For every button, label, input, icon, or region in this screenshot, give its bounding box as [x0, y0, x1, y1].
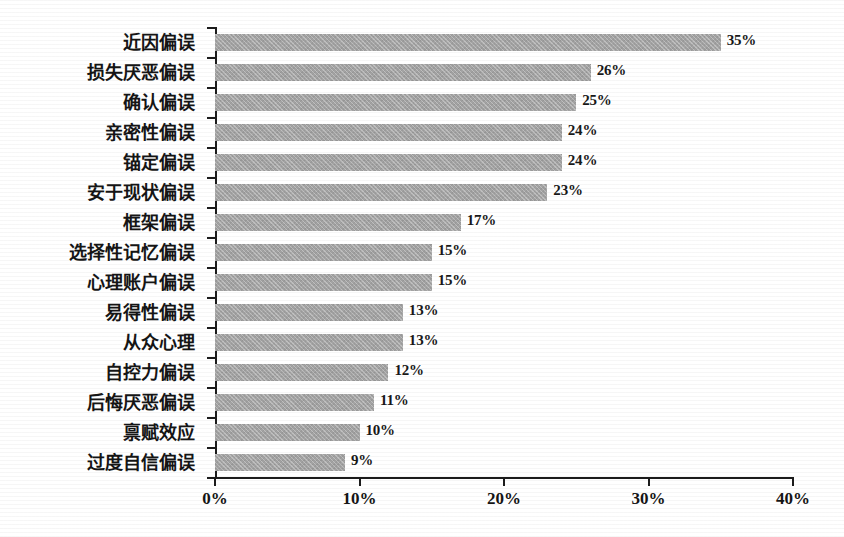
category-label: 禀赋效应	[0, 418, 203, 448]
y-axis-tick	[207, 27, 215, 29]
bar-row: 26%	[215, 58, 793, 88]
category-label: 易得性偏误	[0, 298, 203, 328]
bar-row: 10%	[215, 418, 793, 448]
category-label: 后悔厌恶偏误	[0, 388, 203, 418]
bar	[215, 394, 374, 411]
bar	[215, 124, 562, 141]
bar-row: 13%	[215, 328, 793, 358]
category-label: 自控力偏误	[0, 358, 203, 388]
x-axis-tick	[503, 478, 505, 486]
category-label: 损失厌恶偏误	[0, 58, 203, 88]
y-axis-tick	[207, 267, 215, 269]
bar	[215, 34, 721, 51]
category-label: 安于现状偏误	[0, 178, 203, 208]
bar-value-label: 12%	[394, 362, 423, 379]
y-axis-tick	[207, 297, 215, 299]
category-label: 锚定偏误	[0, 148, 203, 178]
bar-value-label: 13%	[409, 302, 438, 319]
bar	[215, 184, 547, 201]
bar	[215, 64, 591, 81]
bar-row: 11%	[215, 388, 793, 418]
bar-value-label: 10%	[366, 422, 395, 439]
bar-row: 24%	[215, 118, 793, 148]
category-label: 过度自信偏误	[0, 448, 203, 478]
y-axis-tick	[207, 237, 215, 239]
bar	[215, 454, 345, 471]
bar-value-label: 15%	[438, 272, 467, 289]
bar-value-label: 17%	[467, 212, 496, 229]
y-axis-tick	[207, 387, 215, 389]
x-axis-tick-label: 40%	[776, 489, 810, 509]
bar-value-label: 24%	[568, 122, 597, 139]
bar-chart: 近因偏误损失厌恶偏误确认偏误亲密性偏误锚定偏误安于现状偏误框架偏误选择性记忆偏误…	[0, 0, 844, 537]
plot-area: 35%26%25%24%24%23%17%15%15%13%13%12%11%1…	[215, 28, 793, 478]
bar-row: 15%	[215, 268, 793, 298]
category-axis-labels: 近因偏误损失厌恶偏误确认偏误亲密性偏误锚定偏误安于现状偏误框架偏误选择性记忆偏误…	[0, 28, 203, 478]
bar-row: 24%	[215, 148, 793, 178]
category-label: 心理账户偏误	[0, 268, 203, 298]
bar-value-label: 13%	[409, 332, 438, 349]
bar	[215, 274, 432, 291]
x-axis-tick-label: 0%	[202, 489, 228, 509]
category-label: 近因偏误	[0, 28, 203, 58]
bar-value-label: 9%	[351, 452, 373, 469]
y-axis-tick	[207, 447, 215, 449]
bar	[215, 154, 562, 171]
bar	[215, 214, 461, 231]
x-axis-tick-label: 30%	[632, 489, 666, 509]
x-axis-tick	[648, 478, 650, 486]
y-axis-tick	[207, 417, 215, 419]
bar	[215, 364, 388, 381]
bar	[215, 244, 432, 261]
bar-value-label: 35%	[727, 32, 756, 49]
bar	[215, 334, 403, 351]
category-label: 框架偏误	[0, 208, 203, 238]
bar-row: 13%	[215, 298, 793, 328]
category-label: 确认偏误	[0, 88, 203, 118]
bar	[215, 424, 360, 441]
category-label: 从众心理	[0, 328, 203, 358]
bar-value-label: 23%	[553, 182, 582, 199]
bar-value-label: 24%	[568, 152, 597, 169]
bar-row: 23%	[215, 178, 793, 208]
bar-row: 35%	[215, 28, 793, 58]
bar-row: 9%	[215, 448, 793, 478]
bar-value-label: 26%	[597, 62, 626, 79]
bar	[215, 94, 576, 111]
x-axis-tick	[214, 478, 216, 486]
bar-value-label: 15%	[438, 242, 467, 259]
bar-value-label: 25%	[582, 92, 611, 109]
bar-row: 12%	[215, 358, 793, 388]
y-axis-tick	[207, 177, 215, 179]
bar	[215, 304, 403, 321]
x-axis-tick-label: 20%	[487, 489, 521, 509]
category-label: 选择性记忆偏误	[0, 238, 203, 268]
x-axis-tick	[359, 478, 361, 486]
y-axis-tick	[207, 57, 215, 59]
y-axis-tick	[207, 87, 215, 89]
bar-row: 15%	[215, 238, 793, 268]
x-axis-tick-label: 10%	[343, 489, 377, 509]
y-axis-tick	[207, 327, 215, 329]
bar-row: 25%	[215, 88, 793, 118]
category-label: 亲密性偏误	[0, 118, 203, 148]
y-axis-tick	[207, 117, 215, 119]
bar-row: 17%	[215, 208, 793, 238]
x-axis-tick	[792, 478, 794, 486]
y-axis-tick	[207, 357, 215, 359]
bar-value-label: 11%	[380, 392, 409, 409]
y-axis-tick	[207, 147, 215, 149]
y-axis-tick	[207, 207, 215, 209]
